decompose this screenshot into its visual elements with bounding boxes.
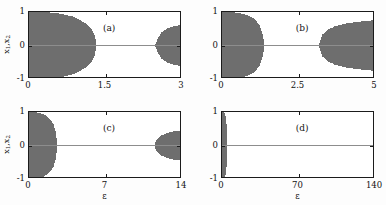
x-tick-label: 0 <box>218 181 223 190</box>
y-tick-label: -1 <box>203 174 218 183</box>
y-tick-mark <box>370 146 373 147</box>
panel-d: (d)070140-101ε <box>0 0 386 205</box>
chaotic-band-slice <box>373 112 374 178</box>
figure-bifurcation-grid: (a)01.53-101x1,x2(b)02.55-101(c)0714-101… <box>0 0 386 205</box>
plot-area <box>221 111 374 178</box>
x-axis-title: ε <box>295 192 299 201</box>
y-tick-label: 1 <box>203 107 218 116</box>
y-tick-mark <box>222 146 225 147</box>
x-tick-label: 140 <box>366 181 382 190</box>
x-tick-mark <box>299 112 300 115</box>
x-tick-mark <box>299 174 300 177</box>
panel-label: (d) <box>296 124 309 133</box>
y-tick-label: 0 <box>203 140 218 149</box>
x-tick-label: 70 <box>292 181 303 190</box>
synchronized-state-line <box>222 145 373 146</box>
